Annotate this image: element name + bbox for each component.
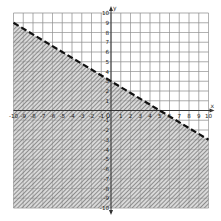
x-tick-label: 4 bbox=[148, 113, 152, 119]
x-tick-label: -6 bbox=[50, 113, 56, 119]
y-tick-label: 3 bbox=[105, 78, 109, 84]
y-tick-label: -4 bbox=[103, 147, 109, 153]
y-tick-label: -9 bbox=[103, 195, 109, 201]
origin-label: 0 bbox=[106, 112, 110, 120]
y-tick-label: -10 bbox=[100, 205, 110, 211]
x-tick-label: -2 bbox=[89, 113, 95, 119]
x-tick-label: -8 bbox=[30, 113, 36, 119]
x-tick-label: -10 bbox=[9, 113, 19, 119]
y-axis-label: y bbox=[113, 4, 117, 12]
x-tick-label: 5 bbox=[158, 113, 162, 119]
y-tick-label: 1 bbox=[105, 98, 109, 104]
y-tick-label: 2 bbox=[105, 88, 109, 94]
y-tick-label: 5 bbox=[105, 59, 109, 65]
y-tick-label: 9 bbox=[105, 20, 109, 26]
x-tick-label: -7 bbox=[40, 113, 46, 119]
x-tick-label: -3 bbox=[79, 113, 85, 119]
y-tick-label: -5 bbox=[103, 156, 109, 162]
y-tick-label: -8 bbox=[103, 186, 109, 192]
x-axis-label: x bbox=[211, 102, 215, 109]
x-tick-label: -9 bbox=[20, 113, 26, 119]
x-tick-label: 8 bbox=[187, 113, 191, 119]
x-tick-label: 10 bbox=[205, 113, 213, 119]
x-tick-label: 2 bbox=[129, 113, 133, 119]
y-tick-label: 4 bbox=[105, 69, 109, 75]
x-tick-label: 9 bbox=[197, 113, 201, 119]
y-tick-label: -7 bbox=[103, 176, 109, 182]
y-tick-label: 8 bbox=[105, 30, 109, 36]
y-tick-label: 7 bbox=[105, 39, 109, 45]
y-tick-label: -6 bbox=[103, 166, 109, 172]
x-tick-label: 1 bbox=[119, 113, 123, 119]
x-tick-label: 3 bbox=[138, 113, 142, 119]
y-tick-label: 10 bbox=[102, 10, 110, 16]
x-tick-label: -4 bbox=[69, 113, 75, 119]
x-tick-label: -5 bbox=[59, 113, 65, 119]
y-tick-label: -2 bbox=[103, 127, 109, 133]
x-tick-label: 6 bbox=[168, 113, 172, 119]
y-axis-arrow-down-icon bbox=[109, 210, 113, 215]
x-tick-label: 7 bbox=[177, 113, 181, 119]
y-tick-label: 6 bbox=[105, 49, 109, 55]
inequality-graph: -10-9-8-7-6-5-4-3-2-112345678910 -10-9-8… bbox=[0, 0, 221, 221]
y-tick-label: -3 bbox=[103, 137, 109, 143]
